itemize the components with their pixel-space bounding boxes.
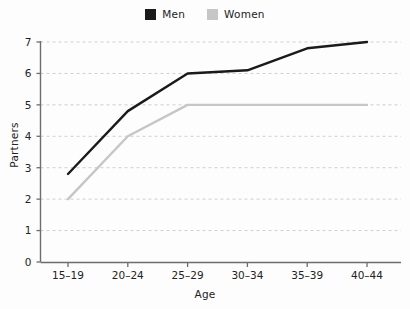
x-tick-labels-group: 15–1920–2425–2930–3435–3940–44	[52, 269, 383, 281]
y-tick-label-6: 6	[25, 67, 32, 79]
y-tick-label-4: 4	[25, 130, 32, 142]
series-line-women	[68, 105, 367, 199]
y-tick-labels-group: 01234567	[25, 36, 32, 268]
plot-area: 01234567 15–1920–2425–2930–3435–3940–44	[0, 0, 410, 309]
x-tick-label-2: 25–29	[172, 269, 204, 281]
y-tick-label-3: 3	[25, 162, 32, 174]
gridlines-group	[41, 42, 402, 231]
y-axis-title: Partners	[8, 110, 20, 180]
x-axis-title: Age	[40, 288, 370, 300]
x-tick-label-1: 20–24	[112, 269, 144, 281]
y-tick-label-0: 0	[25, 256, 32, 268]
y-tick-label-7: 7	[25, 36, 32, 48]
x-tick-label-5: 40–44	[351, 269, 383, 281]
x-tick-label-4: 35–39	[291, 269, 323, 281]
data-series-group	[68, 42, 367, 199]
y-tick-label-5: 5	[25, 99, 32, 111]
chart-figure: Men Women 01234567 15–1920–2425–2930–343…	[0, 0, 410, 309]
series-line-men	[68, 42, 367, 174]
y-tick-label-2: 2	[25, 193, 32, 205]
chart-canvas: 01234567 15–1920–2425–2930–3435–3940–44	[0, 0, 410, 309]
x-tick-label-3: 30–34	[231, 269, 263, 281]
x-tick-label-0: 15–19	[52, 269, 84, 281]
y-tick-label-1: 1	[25, 224, 32, 236]
